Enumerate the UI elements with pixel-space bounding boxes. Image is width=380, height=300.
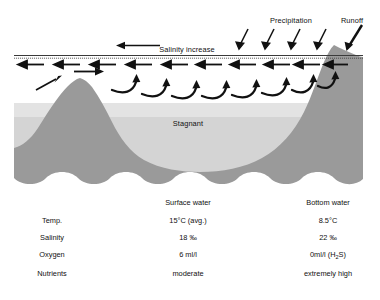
table-row: Nutrients moderate extremely high — [0, 269, 380, 284]
cell-oxygen-bottom-post: S) — [339, 250, 346, 259]
cell-oxygen-bottom-pre: 0ml/l (H — [310, 250, 335, 259]
cell-oxygen-bottom: 0ml/l (H2S) — [310, 250, 346, 259]
cell-temp-bottom-text: 8.5°C — [319, 216, 338, 225]
cell-salinity-bottom: 22 ‰ — [319, 233, 337, 242]
precipitation-arrow-3 — [288, 29, 300, 49]
figure-root: Precipitation Runoff Salinity increase S… — [0, 0, 380, 300]
row-label-temp: Temp. — [42, 216, 62, 225]
row-label-oxygen: Oxygen — [39, 250, 64, 259]
cell-nutrients-surface: moderate — [172, 269, 203, 278]
precipitation-arrows — [236, 29, 326, 49]
precipitation-label: Precipitation — [270, 17, 312, 24]
cell-nutrients-bottom: extremely high — [304, 269, 352, 278]
column-header-bottom-water: Bottom water — [306, 198, 350, 207]
table-header-row: Surface water Bottom water — [0, 198, 380, 213]
precipitation-arrow-1 — [236, 29, 248, 49]
runoff-arrow — [345, 25, 362, 51]
cell-temp-surface: 15°C (avg.) — [169, 216, 206, 225]
table-row: Salinity 18 ‰ 22 ‰ — [0, 233, 380, 248]
cell-salinity-surface: 18 ‰ — [179, 233, 197, 242]
runoff-label: Runoff — [341, 17, 363, 24]
stagnant-label: Stagnant — [173, 120, 203, 127]
table-row: Oxygen 6 ml/l 0ml/l (H2S) — [0, 250, 380, 265]
precipitation-arrow-2 — [262, 29, 274, 49]
water-properties-table: Surface water Bottom water Temp. 15°C (a… — [0, 198, 380, 296]
column-header-surface-water: Surface water — [165, 198, 211, 207]
cell-oxygen-surface: 6 ml/l — [179, 250, 197, 259]
salinity-increase-arrow — [116, 42, 160, 49]
table-row: Temp. 15°C (avg.) 8.5°C — [0, 216, 380, 231]
precipitation-arrow-4 — [314, 29, 326, 49]
cell-nutrients-bottom-text: extremely high — [304, 269, 352, 278]
cell-temp-bottom: 8.5°C — [319, 216, 338, 225]
cell-salinity-bottom-text: 22 ‰ — [319, 233, 337, 242]
salinity-increase-label: Salinity increase — [159, 46, 215, 53]
row-label-nutrients: Nutrients — [37, 269, 67, 278]
seafloor-wavy-edge — [14, 172, 363, 192]
cell-oxygen-bottom-subscript: 2 — [335, 254, 338, 260]
row-label-salinity: Salinity — [40, 233, 64, 242]
